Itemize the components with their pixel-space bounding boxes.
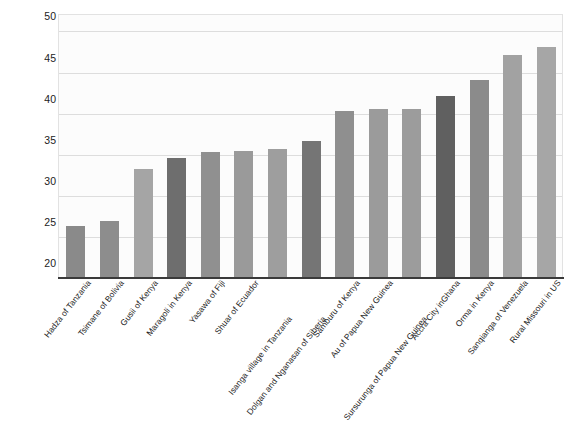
x-tick-label: Accra City inGhana: [409, 278, 462, 342]
y-axis-tick-labels: 20253035404550: [16, 0, 56, 264]
bar-series: [59, 14, 563, 277]
bar: [201, 152, 220, 277]
chart-figure: Dictator Game Offers as Percentage of St…: [0, 0, 585, 421]
x-tick-label: Sanqianga of Venezuela: [465, 278, 529, 357]
bar: [134, 169, 153, 277]
x-tick-label: Isanga village in Tanzania: [227, 314, 295, 397]
bar: [302, 141, 321, 277]
bar: [66, 226, 85, 277]
y-tick-label: 50: [22, 10, 56, 22]
bar: [436, 96, 455, 277]
bar: [503, 55, 522, 277]
bar: [335, 111, 354, 277]
y-tick-label: 30: [22, 175, 56, 187]
y-tick-label: 25: [22, 216, 56, 228]
bar: [470, 80, 489, 277]
bar: [100, 221, 119, 277]
bar: [268, 149, 287, 277]
bar: [167, 158, 186, 277]
x-tick-label: Au of Papua New Guinea: [328, 278, 395, 360]
x-axis-tick-labels: Hadza of TanzaniaTsimane of BoliviaGusii…: [0, 278, 585, 420]
bar: [234, 151, 253, 277]
y-tick-label: 35: [22, 134, 56, 146]
bar: [369, 109, 388, 277]
y-tick-label: 20: [22, 257, 56, 269]
bar: [402, 109, 421, 277]
y-tick-label: 45: [22, 52, 56, 64]
y-tick-label: 40: [22, 93, 56, 105]
bar: [537, 47, 556, 277]
